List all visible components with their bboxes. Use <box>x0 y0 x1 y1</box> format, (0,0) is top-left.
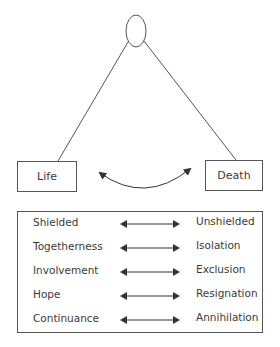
death-node: Death <box>205 160 263 191</box>
double-arrow-icon <box>120 218 180 230</box>
pair-left: Continuance <box>33 312 99 324</box>
pair-right: Annihilation <box>196 311 258 323</box>
double-arrow-icon <box>120 290 180 302</box>
pair-left: Shielded <box>33 216 78 228</box>
left-branch-line <box>58 42 128 161</box>
pair-left: Togetherness <box>33 240 103 252</box>
pair-row: Shielded Unshielded <box>18 212 262 236</box>
right-branch-line <box>144 41 236 160</box>
life-label: Life <box>37 170 57 183</box>
life-node: Life <box>17 161 77 192</box>
pair-row: Involvement Exclusion <box>18 260 262 284</box>
death-label: Death <box>217 169 250 182</box>
pair-row: Togetherness Isolation <box>18 236 262 260</box>
pair-row: Continuance Annihilation <box>18 308 262 332</box>
double-arrow-icon <box>120 242 180 254</box>
pair-left: Involvement <box>33 264 98 276</box>
pair-left: Hope <box>33 288 60 300</box>
pair-row: Hope Resignation <box>18 284 262 308</box>
double-arrow-icon <box>120 314 180 326</box>
pair-right: Exclusion <box>196 263 245 275</box>
pair-right: Resignation <box>196 287 258 299</box>
opposites-table: Shielded Unshielded Togetherness Isolati… <box>17 211 263 333</box>
double-arrow-icon <box>120 266 180 278</box>
curved-double-arrow-icon <box>100 169 190 188</box>
pair-right: Isolation <box>196 239 240 251</box>
top-node-ellipse <box>126 15 146 47</box>
pair-right: Unshielded <box>196 215 255 227</box>
